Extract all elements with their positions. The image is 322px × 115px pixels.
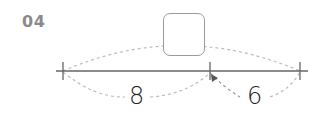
arrow-icon	[211, 74, 218, 82]
segment-arc-left	[63, 72, 125, 97]
segment-label-left: 8	[129, 84, 144, 108]
segment-arc-right-2	[270, 72, 300, 97]
segment-arc-left-2	[150, 73, 210, 97]
answer-box[interactable]	[163, 13, 205, 56]
segment-label-right: 6	[247, 84, 262, 108]
number-line-diagram	[0, 0, 322, 115]
